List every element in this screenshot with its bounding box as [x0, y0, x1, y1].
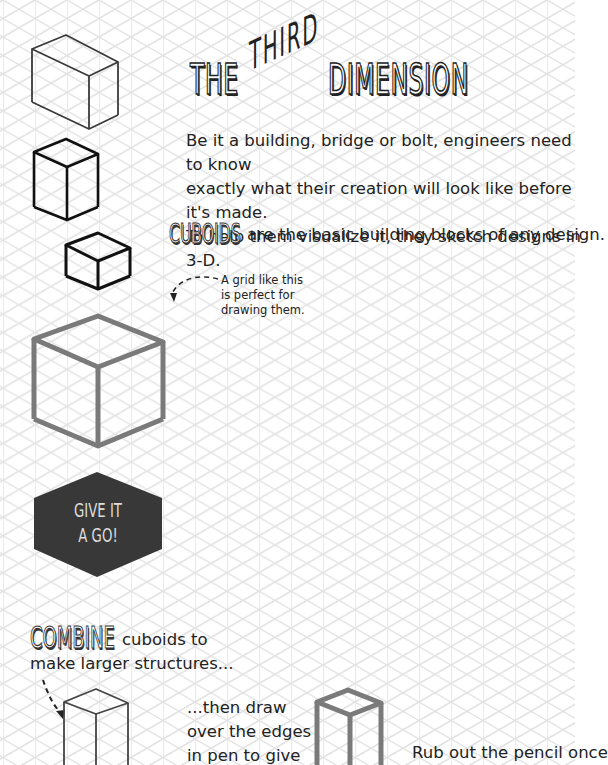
note-line: A grid like this	[221, 273, 321, 288]
rub-out-text: Rub out the pencil once	[412, 741, 608, 765]
give-line: A GO!	[53, 523, 143, 548]
combine-row: COMBINE cuboids to	[30, 620, 171, 655]
intro-line: Be it a building, bridge or bolt, engine…	[186, 129, 586, 177]
give-it-a-go-label: GIVE IT A GO!	[34, 498, 162, 548]
cuboids-heading: CUBOIDS	[169, 219, 241, 249]
grid-note: A grid like this is perfect for drawing …	[221, 273, 321, 318]
note-line: drawing them.	[221, 303, 321, 318]
then-line: ...then draw	[187, 696, 311, 720]
cuboids-text: are the basic building blocks of any des…	[247, 225, 605, 244]
then-paragraph: ...then draw over the edges in pen to gi…	[187, 696, 311, 765]
combine-text: cuboids to	[122, 630, 208, 649]
intro-line: exactly what their creation will look li…	[186, 177, 586, 225]
give-line: GIVE IT	[53, 498, 143, 523]
note-line: is perfect for	[221, 288, 321, 303]
title-the: THE	[190, 55, 239, 104]
combine-line2: make larger structures...	[30, 652, 234, 676]
intro-paragraph: Be it a building, bridge or bolt, engine…	[186, 129, 586, 273]
title-dimension: DIMENSION	[328, 55, 469, 104]
cuboids-row: CUBOIDS are the basic building blocks of…	[169, 219, 288, 249]
then-line: over the edges	[187, 720, 311, 744]
then-line: in pen to give	[187, 744, 311, 765]
combine-heading: COMBINE	[30, 620, 115, 655]
